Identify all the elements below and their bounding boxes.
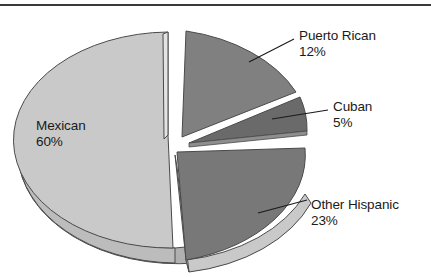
slice-label-cuban-name: Cuban [333,99,372,114]
slice-label-puerto-rican: Puerto Rican 12% [299,28,376,59]
slice-label-cuban-percent: 5% [333,115,372,131]
slice-label-puerto-rican-name: Puerto Rican [299,28,376,43]
slice-label-cuban: Cuban 5% [333,99,372,130]
slice-label-other-hispanic-percent: 23% [311,213,399,229]
slice-label-other-hispanic: Other Hispanic 23% [311,197,399,228]
leader-line-puerto-rican [249,39,294,62]
slice-label-puerto-rican-percent: 12% [299,44,376,60]
slice-label-mexican-percent: 60% [36,134,86,150]
slice-mexican-cut-edge [163,32,168,139]
slice-label-mexican: Mexican 60% [36,118,86,149]
slice-label-other-hispanic-name: Other Hispanic [311,197,399,212]
pie-chart-figure: Mexican 60% Puerto Rican 12% Cuban 5% Ot… [0,0,431,277]
slice-other-hispanic-top [177,148,305,260]
slice-label-mexican-name: Mexican [36,118,86,133]
